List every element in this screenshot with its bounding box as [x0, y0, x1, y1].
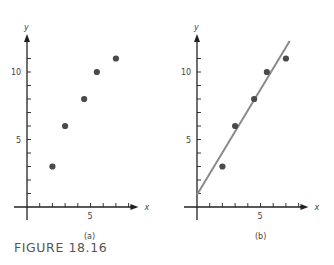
y-tick-label: 10	[181, 68, 191, 77]
data-point	[113, 55, 119, 61]
y-axis-arrow-icon	[24, 34, 30, 42]
scatter-panel-b: xy5510	[181, 23, 319, 221]
x-axis-label: x	[313, 203, 319, 212]
scatter-panel-a: xy5510	[11, 23, 149, 221]
figure-caption: FIGURE 18.16	[14, 240, 107, 255]
figure-canvas: xy5510xy5510	[0, 0, 334, 265]
data-point	[232, 123, 238, 129]
x-axis-arrow-icon	[130, 204, 138, 210]
y-axis-arrow-icon	[194, 34, 200, 42]
x-tick-label: 5	[88, 212, 93, 221]
data-point	[219, 163, 225, 169]
y-axis-label: y	[193, 23, 199, 32]
regression-line	[197, 41, 290, 195]
x-axis-label: x	[143, 203, 149, 212]
data-point	[283, 55, 289, 61]
y-tick-label: 5	[186, 136, 191, 145]
data-point	[62, 123, 68, 129]
data-point	[264, 69, 270, 75]
data-point	[49, 163, 55, 169]
y-tick-label: 10	[11, 68, 21, 77]
x-tick-label: 5	[258, 212, 263, 221]
y-axis-label: y	[23, 23, 29, 32]
data-point	[94, 69, 100, 75]
x-axis-arrow-icon	[300, 204, 308, 210]
data-point	[81, 96, 87, 102]
data-point	[251, 96, 257, 102]
panel-b-label: (b)	[255, 232, 266, 241]
y-tick-label: 5	[16, 136, 21, 145]
